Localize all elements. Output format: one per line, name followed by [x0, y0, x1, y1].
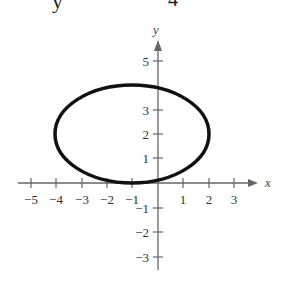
- y-tick-label: −2: [135, 225, 149, 240]
- x-tick-label: 1: [180, 192, 187, 207]
- y-axis: 5 3 2 1 −1 −2 −3 y: [135, 22, 163, 270]
- header-partial-left: y: [52, 0, 63, 13]
- header-partial-right: 4: [168, 0, 178, 10]
- x-tick-label: 3: [231, 192, 238, 207]
- y-tick-label: 3: [143, 103, 150, 118]
- y-axis-label: y: [151, 22, 159, 37]
- ellipse-plot: y 4 −5 −4 −3 −2 −1 1 2 3 x: [0, 0, 284, 281]
- y-tick-label: 1: [143, 151, 150, 166]
- y-tick-label: 2: [143, 127, 150, 142]
- x-tick-label: −2: [100, 192, 114, 207]
- y-tick-label: 5: [143, 54, 150, 69]
- x-tick-label: 2: [206, 192, 213, 207]
- x-tick-label: −4: [49, 192, 63, 207]
- x-tick-label: −5: [24, 192, 38, 207]
- y-tick-label: −3: [135, 250, 149, 265]
- ellipse-curve: [55, 85, 209, 183]
- y-tick-label: −1: [135, 201, 149, 216]
- x-tick-label: −3: [75, 192, 89, 207]
- x-axis-label: x: [264, 175, 271, 190]
